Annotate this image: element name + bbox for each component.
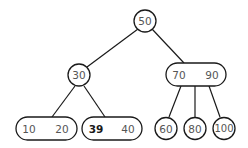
edge-7090-60 xyxy=(169,86,181,117)
node-key: 90 xyxy=(205,69,218,81)
node-key: 60 xyxy=(159,123,172,135)
tree-diagram: 50 30 70 90 10 20 39 40 60 80 100 xyxy=(0,0,248,148)
edge-50-30 xyxy=(87,29,138,67)
node-key: 50 xyxy=(138,15,151,27)
edge-30-1020 xyxy=(52,86,75,117)
node-key: 40 xyxy=(121,123,134,135)
node-key: 20 xyxy=(55,123,68,135)
edge-30-3940 xyxy=(84,86,105,117)
node-80: 80 xyxy=(184,118,206,140)
node-key: 30 xyxy=(72,69,85,81)
node-key: 80 xyxy=(188,123,201,135)
node-100: 100 xyxy=(213,118,235,140)
node-30: 30 xyxy=(68,64,90,86)
edge-7090-100 xyxy=(209,86,220,117)
node-70-90: 70 90 xyxy=(166,63,226,86)
node-10-20: 10 20 xyxy=(16,117,77,140)
node-key: 70 xyxy=(172,69,185,81)
node-39-40: 39 40 xyxy=(82,117,142,140)
node-key: 10 xyxy=(22,123,35,135)
edge-50-7090 xyxy=(152,29,184,63)
node-key: 100 xyxy=(214,123,233,134)
node-60: 60 xyxy=(155,118,177,140)
node-root: 50 xyxy=(134,10,156,32)
node-key-highlighted: 39 xyxy=(89,123,104,135)
